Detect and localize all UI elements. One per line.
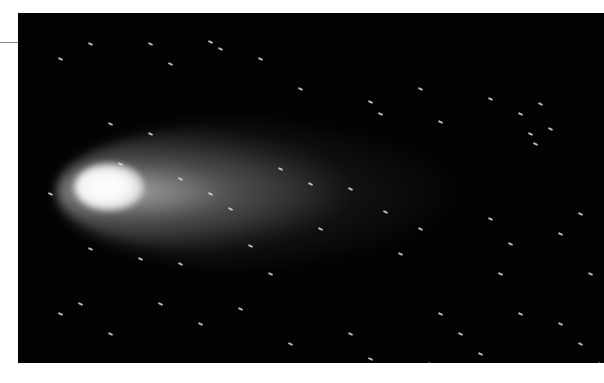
star [258, 57, 263, 61]
star [578, 342, 583, 346]
star [458, 332, 463, 336]
star [288, 342, 293, 346]
star [88, 247, 93, 251]
star [418, 87, 423, 91]
caption [0, 365, 604, 383]
star [58, 57, 63, 61]
star [218, 47, 223, 51]
star [518, 112, 523, 116]
star [498, 272, 503, 276]
star [518, 312, 523, 316]
star [548, 127, 553, 131]
star [138, 257, 143, 261]
star [88, 42, 93, 46]
comet-coma [74, 163, 144, 211]
star [578, 212, 583, 216]
star [348, 332, 353, 336]
star [108, 332, 113, 336]
star [438, 312, 443, 316]
star [48, 192, 53, 196]
star [208, 40, 213, 44]
star [298, 87, 303, 91]
star [108, 122, 113, 126]
star [528, 132, 533, 136]
star [238, 307, 243, 311]
star [368, 100, 373, 104]
star [478, 352, 483, 356]
star [558, 322, 563, 326]
star [378, 112, 383, 116]
star [508, 242, 513, 246]
star [538, 102, 543, 106]
star [588, 272, 593, 276]
star [533, 142, 538, 146]
star [598, 362, 603, 363]
star [158, 302, 163, 306]
star [198, 322, 203, 326]
star [428, 362, 433, 363]
star [78, 302, 83, 306]
leader-line [0, 42, 18, 43]
star [438, 120, 443, 124]
comet-photo [18, 13, 604, 363]
star [368, 357, 373, 361]
star [58, 312, 63, 316]
star [148, 42, 153, 46]
star [168, 62, 173, 66]
star [488, 97, 493, 101]
star [558, 232, 563, 236]
